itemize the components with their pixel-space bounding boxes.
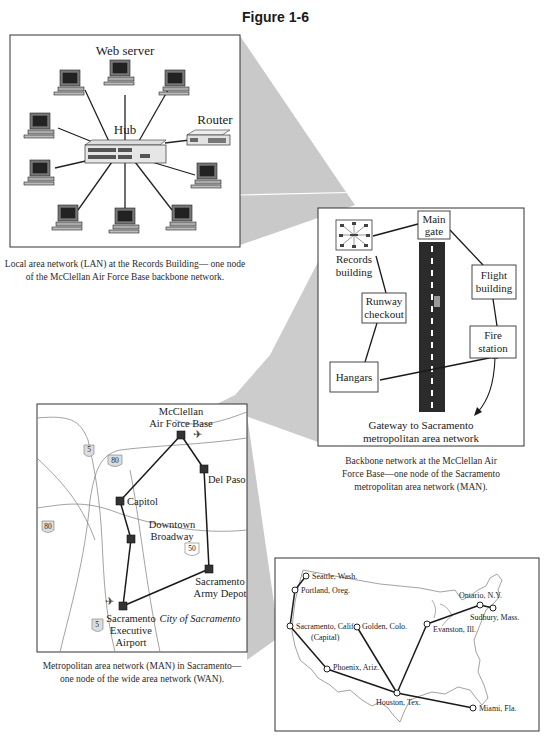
airplane-icon: ✈ — [193, 428, 202, 441]
seattle-node — [303, 573, 309, 579]
svg-text:Airport: Airport — [116, 637, 147, 648]
golden-label: Golden, Colo. — [362, 622, 407, 631]
svg-text:5: 5 — [95, 620, 99, 629]
airport-node — [119, 602, 127, 610]
svg-text:Army Depot: Army Depot — [194, 588, 247, 599]
svg-text:Broadway: Broadway — [150, 531, 194, 542]
hub-icon — [85, 140, 166, 163]
svg-text:5: 5 — [87, 445, 91, 454]
mcclellan-node — [177, 431, 185, 439]
downtown-label: Downtown — [149, 519, 196, 530]
portland-node — [292, 587, 298, 593]
phoenix-node — [324, 666, 330, 672]
svg-text:50: 50 — [188, 544, 196, 553]
svg-text:building: building — [336, 266, 373, 278]
lan-caption: Local area network (LAN) at the Records … — [0, 258, 250, 284]
funnel-man-to-wan — [247, 415, 275, 660]
svg-text:80: 80 — [44, 522, 52, 531]
man-caption: Metropolitan area network (MAN) in Sacra… — [20, 660, 264, 686]
city-label: City of Sacramento — [159, 613, 240, 624]
aircraft-icon — [434, 296, 440, 307]
router-icon — [187, 130, 230, 145]
figure-diagram: Web server Hub Router Main gate Records — [0, 0, 551, 740]
seattle-label: Seattle, Wash. — [312, 572, 357, 581]
runway-checkout-label: Runway — [366, 295, 403, 307]
downtown-node — [127, 535, 135, 543]
mcclellan-label: McClellan — [159, 406, 204, 417]
portland-label: Portland, Oreg. — [301, 586, 350, 595]
capitol-node — [116, 497, 124, 505]
svg-text:gate: gate — [425, 225, 443, 237]
miami-node — [470, 705, 476, 711]
flight-building-label: Flight — [481, 269, 507, 281]
army-depot-label: Sacramento — [195, 576, 245, 587]
gateway-label: Gateway to Sacramento — [368, 419, 474, 431]
runway — [419, 242, 445, 412]
ontario-node — [477, 602, 483, 608]
sudbury-node — [490, 605, 496, 611]
svg-text:Air Force Base: Air Force Base — [149, 418, 213, 429]
svg-text:(Capital): (Capital) — [311, 633, 340, 642]
svg-text:80: 80 — [111, 456, 119, 465]
phoenix-label: Phoenix, Ariz. — [333, 663, 379, 672]
web-server-label: Web server — [96, 43, 155, 58]
miami-label: Miami, Fla. — [479, 704, 517, 713]
airplane-icon: ✈ — [105, 595, 114, 608]
records-building-label: Records — [336, 253, 372, 265]
sacramento-node — [287, 623, 293, 629]
evanston-node — [424, 621, 430, 627]
capitol-label: Capitol — [127, 496, 158, 507]
svg-text:station: station — [478, 342, 508, 354]
main-gate-label: Main — [422, 213, 446, 225]
houston-node — [394, 690, 400, 696]
houston-label: Houston, Tex. — [376, 698, 421, 707]
router-label: Router — [197, 112, 233, 127]
del-paso-label: Del Paso — [208, 474, 246, 485]
del-paso-node — [200, 465, 208, 473]
fire-station-label: Fire — [484, 329, 502, 341]
hub-label: Hub — [114, 122, 136, 137]
airport-label: Sacramento — [106, 613, 156, 624]
army-depot-node — [205, 565, 213, 573]
svg-text:checkout: checkout — [364, 308, 404, 320]
hangars-label: Hangars — [336, 371, 373, 383]
sudbury-label: Sudbury, Mass. — [470, 613, 519, 622]
evanston-label: Evanston, Ill. — [433, 625, 476, 634]
svg-text:metropolitan area network: metropolitan area network — [363, 432, 480, 444]
sacramento-label: Sacramento, Calif. — [296, 622, 356, 631]
svg-text:Executive: Executive — [110, 625, 152, 636]
ontario-label: Ontario, N.Y. — [459, 591, 502, 600]
svg-text:building: building — [476, 282, 513, 294]
backbone-caption: Backbone network at the McClellan Air Fo… — [318, 455, 524, 494]
